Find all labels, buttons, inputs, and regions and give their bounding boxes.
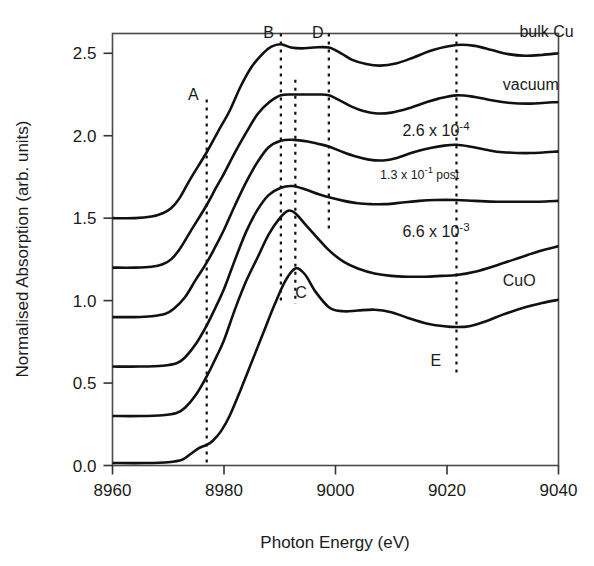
series-label: vacuum xyxy=(503,76,559,93)
x-tick-label: 8960 xyxy=(94,481,132,500)
y-tick-label: 2.0 xyxy=(73,127,97,146)
marker-label-c: C xyxy=(295,284,307,301)
series-label: bulk Cu xyxy=(519,23,573,40)
y-tick-label: 2.5 xyxy=(73,44,97,63)
x-tick-label: 9040 xyxy=(540,481,578,500)
xanes-figure: 89608980900090209040 0.00.51.01.52.02.5 … xyxy=(0,0,594,566)
series-label: CuO xyxy=(503,272,536,289)
y-tick-label: 1.0 xyxy=(73,292,97,311)
y-tick-label: 1.5 xyxy=(73,209,97,228)
y-tick-label: 0.0 xyxy=(73,457,97,476)
x-tick-label: 8980 xyxy=(205,481,243,500)
x-tick-label: 9000 xyxy=(317,481,355,500)
y-tick-label: 0.5 xyxy=(73,374,97,393)
marker-label-b: B xyxy=(263,24,274,41)
marker-label-e: E xyxy=(431,352,442,369)
x-tick-label: 9020 xyxy=(428,481,466,500)
marker-label-d: D xyxy=(312,24,324,41)
chart-canvas: 89608980900090209040 0.00.51.01.52.02.5 … xyxy=(0,0,594,566)
marker-label-a: A xyxy=(188,86,199,103)
y-axis-title: Normalised Absorption (arb. units) xyxy=(13,120,32,377)
x-axis-title: Photon Energy (eV) xyxy=(260,533,409,552)
